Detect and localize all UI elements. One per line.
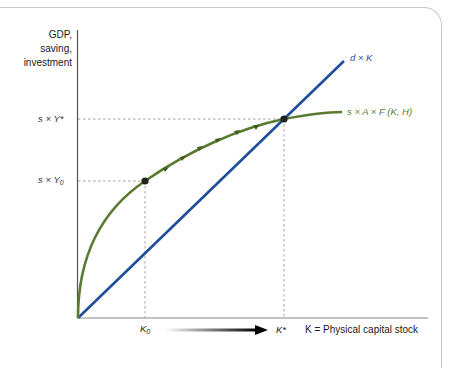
y-axis-label: GDP, saving, investment (10, 28, 72, 70)
direction-arrows-icon (163, 125, 259, 172)
capital-growth-arrow (165, 329, 257, 332)
y-tick-steady-state: s × Y* (38, 113, 63, 124)
x-axis-label: K = Physical capital stock (305, 324, 418, 335)
x-tick-steady-state: K* (276, 324, 286, 335)
initial-point (141, 177, 148, 184)
x-tick-initial: K0 (140, 323, 150, 335)
depreciation-label: d × K (350, 52, 372, 63)
y-tick-initial: s × Y0 (38, 174, 64, 186)
saving-label: s × A × F (K, H) (347, 106, 412, 117)
depreciation-line (78, 61, 344, 318)
saving-curve (78, 112, 342, 318)
arrowhead-icon (255, 325, 268, 335)
steady-state-point (280, 115, 287, 122)
